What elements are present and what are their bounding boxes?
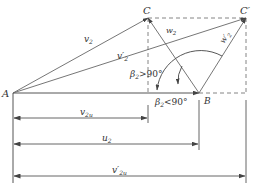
angle-arc-obtuse (157, 51, 222, 90)
label-beta2-obtuse: β2>90° (129, 69, 163, 80)
label-u2: u2 (102, 133, 112, 144)
label-v2-prime: v′2 (117, 51, 128, 62)
label-beta2-acute: β2<90° (154, 97, 188, 108)
angle-arc-acute (178, 66, 182, 84)
velocity-triangle-diagram: A B C C′ v2 v′2 w2 w′2 β2>90° β2<90° v2u… (0, 0, 256, 192)
dashed-construction-lines (148, 18, 246, 93)
label-w2: w2 (166, 26, 177, 36)
point-label-a: A (1, 88, 9, 99)
label-v2u: v2u (80, 107, 93, 118)
point-label-b: B (203, 96, 211, 106)
label-v2u-prime: v′2u (112, 165, 127, 176)
vector-v2-prime (13, 18, 246, 93)
vector-w2-prime (199, 18, 246, 93)
point-label-c-prime: C′ (240, 5, 251, 16)
point-label-c: C (143, 5, 151, 16)
label-v2: v2 (84, 34, 93, 45)
label-w2-prime: w′2 (218, 30, 233, 46)
